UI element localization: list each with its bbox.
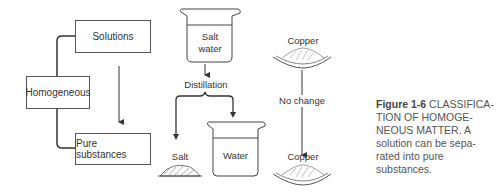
- distillation-label: Distillation: [178, 79, 234, 91]
- pure-substances-label: Pure substances: [76, 138, 150, 160]
- no-change-label: No change: [276, 95, 328, 107]
- figure-caption: Figure 1-6 CLASSIFICA- TION OF HOMOGE- N…: [376, 98, 504, 176]
- salt-water-label: Salt water: [188, 31, 232, 55]
- caption-line-4: rated into pure: [376, 150, 444, 162]
- caption-line-0: CLASSIFICA-: [429, 98, 494, 110]
- solutions-label: Solutions: [92, 31, 133, 42]
- homogeneous-box: Homogeneous: [26, 76, 90, 109]
- figure-number: Figure 1-6: [376, 98, 426, 110]
- copper-top-dish-icon: [273, 48, 331, 68]
- solutions-box: Solutions: [75, 20, 151, 53]
- water-beaker-icon: [207, 122, 265, 176]
- copper-top-label: Copper: [282, 35, 324, 47]
- water-label: Water: [213, 150, 258, 162]
- caption-line-3: solution can be sepa-: [376, 137, 476, 149]
- caption-line-2: NEOUS MATTER. A: [376, 124, 471, 136]
- pure-substances-box: Pure substances: [75, 133, 151, 165]
- caption-line-1: TION OF HOMOGE-: [376, 111, 473, 123]
- homogeneous-label: Homogeneous: [25, 87, 90, 98]
- salt-label: Salt: [165, 151, 195, 163]
- salt-pile-icon: [158, 165, 202, 176]
- caption-line-5: substances.: [376, 163, 432, 175]
- copper-bottom-label: Copper: [282, 151, 324, 163]
- copper-bottom-dish-icon: [273, 165, 331, 185]
